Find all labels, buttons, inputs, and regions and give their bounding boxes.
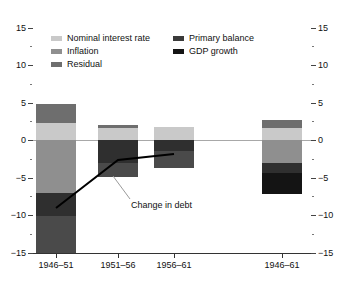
y-minor-tick-left-neg7_5 <box>30 196 32 197</box>
y-tick-right-15 <box>311 28 316 29</box>
bar-1956-61-segment-nominal-interest-rate <box>154 127 194 140</box>
legend-label-nominal-interest-rate: Nominal interest rate <box>67 33 150 43</box>
y-axis-label-right-neg15: −15 <box>318 249 342 258</box>
y-minor-tick-right-2_5 <box>312 121 314 122</box>
bar-1946-61-segment-inflation <box>262 140 302 163</box>
legend-label-inflation: Inflation <box>67 46 99 56</box>
y-tick-left-10 <box>28 65 33 66</box>
x-axis-label-1946-51: 1946–51 <box>26 261 86 270</box>
x-tick-1946-51 <box>56 254 57 258</box>
y-minor-tick-right-neg7_5 <box>312 196 314 197</box>
legend-swatch-gdp-growth <box>173 49 184 54</box>
y-tick-right-0 <box>311 140 316 141</box>
y-tick-right-neg10 <box>311 215 316 216</box>
legend-item-primary-balance: Primary balance <box>173 33 254 43</box>
y-axis-label-left-0: 0 <box>2 136 26 145</box>
bar-1946-51-segment-nominal-interest-rate <box>36 123 76 140</box>
x-tick-1951-56 <box>118 254 119 258</box>
bar-1946-51-segment-primary-balance <box>36 193 76 216</box>
y-minor-tick-left-12_5 <box>30 46 32 47</box>
legend-item-inflation: Inflation <box>51 46 99 56</box>
legend-swatch-primary-balance <box>173 36 184 41</box>
bar-1946-61-segment-residual <box>262 120 302 128</box>
y-axis-label-left-10: 10 <box>2 61 26 70</box>
y-minor-tick-right-neg2_5 <box>312 159 314 160</box>
y-axis-label-left-5: 5 <box>2 99 26 108</box>
y-axis-label-right-neg10: −10 <box>318 211 342 220</box>
y-minor-tick-right-7_5 <box>312 84 314 85</box>
y-tick-right-10 <box>311 65 316 66</box>
bar-1951-56-segment-primary-balance <box>98 140 138 163</box>
y-axis-label-right-0: 0 <box>318 136 342 145</box>
bar-1956-61-segment-primary-balance <box>154 140 194 151</box>
y-axis-label-left-neg5: −5 <box>2 174 26 183</box>
chart-container: 15 10 5 0 −5 −10 −15 15 10 5 0 −5 −10 −1… <box>0 0 344 288</box>
y-minor-tick-left-neg12_5 <box>30 234 32 235</box>
legend-swatch-nominal-interest-rate <box>51 36 62 41</box>
y-minor-tick-right-12_5 <box>312 46 314 47</box>
y-axis-label-right-10: 10 <box>318 61 342 70</box>
legend-item-nominal-interest-rate: Nominal interest rate <box>51 33 150 43</box>
x-axis-label-1946-61: 1946–61 <box>252 261 312 270</box>
bar-1946-61-segment-nominal-interest-rate <box>262 128 302 140</box>
legend-label-residual: Residual <box>67 59 102 69</box>
bar-1946-51-segment-gdp-growth <box>36 216 76 253</box>
bar-1946-61-segment-gdp-growth <box>262 173 302 194</box>
bar-1951-56-segment-nominal-interest-rate <box>98 128 138 140</box>
annotation-leader-line <box>113 176 130 199</box>
y-minor-tick-right-neg12_5 <box>312 234 314 235</box>
legend-swatch-inflation <box>51 49 62 54</box>
y-tick-right-5 <box>311 103 316 104</box>
x-tick-1946-61 <box>282 254 283 258</box>
x-tick-1956-61 <box>174 254 175 258</box>
x-axis-label-1951-56: 1951–56 <box>88 261 148 270</box>
bar-1956-61-segment-gdp-growth <box>154 151 194 168</box>
legend-swatch-residual <box>51 62 62 67</box>
y-axis-label-right-15: 15 <box>318 24 342 33</box>
change-in-debt-annotation: Change in debt <box>131 201 192 210</box>
x-axis-label-1956-61: 1956–61 <box>144 261 204 270</box>
legend-label-primary-balance: Primary balance <box>189 33 254 43</box>
y-axis-label-left-neg15: −15 <box>2 249 26 258</box>
legend-item-gdp-growth: GDP growth <box>173 46 238 56</box>
bar-1946-61-segment-primary-balance <box>262 163 302 173</box>
y-axis-label-right-neg5: −5 <box>318 174 342 183</box>
y-minor-tick-left-7_5 <box>30 84 32 85</box>
y-tick-right-neg15 <box>311 253 316 254</box>
y-axis-label-left-neg10: −10 <box>2 211 26 220</box>
y-minor-tick-left-neg2_5 <box>30 159 32 160</box>
y-tick-left-neg10 <box>28 215 33 216</box>
y-tick-left-neg5 <box>28 178 33 179</box>
y-tick-left-5 <box>28 103 33 104</box>
y-minor-tick-left-2_5 <box>30 121 32 122</box>
x-axis-baseline <box>33 253 311 254</box>
bar-1946-51-segment-residual <box>36 104 76 123</box>
bar-1951-56-segment-gdp-growth <box>98 163 138 177</box>
y-axis-label-left-15: 15 <box>2 24 26 33</box>
y-tick-right-neg5 <box>311 178 316 179</box>
y-axis-label-right-5: 5 <box>318 99 342 108</box>
legend-item-residual: Residual <box>51 59 102 69</box>
legend-label-gdp-growth: GDP growth <box>189 46 238 56</box>
bar-1946-51-segment-inflation <box>36 140 76 193</box>
y-tick-left-15 <box>28 28 33 29</box>
